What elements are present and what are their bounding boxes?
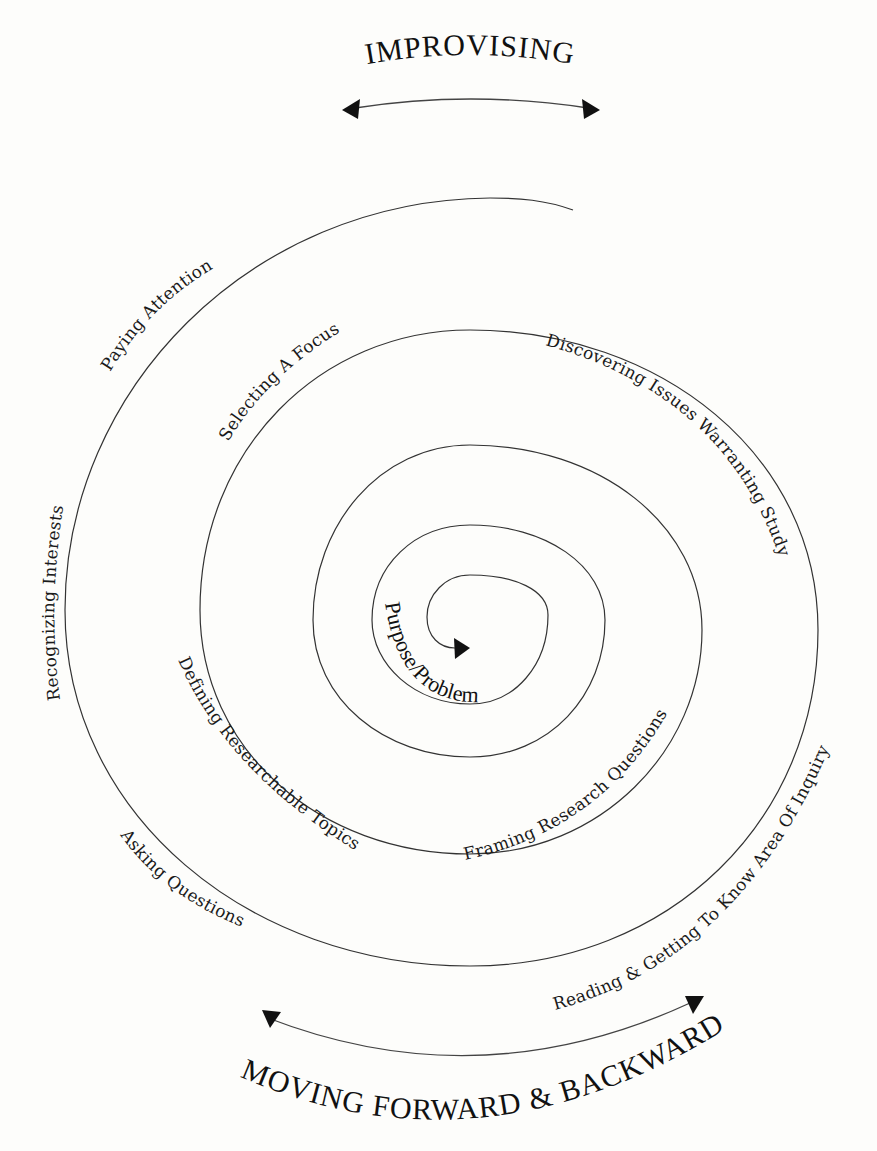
moving-forward-backward-title: MOVING FORWARD & BACKWARD — [237, 1006, 729, 1126]
label-defining-topics: Defining Researchable Topics — [174, 653, 364, 854]
label-recognizing-interests: Recognizing Interests — [38, 503, 67, 702]
spiral-line — [65, 198, 818, 966]
improvising-title: IMPROVISING — [362, 28, 577, 70]
research-spiral-diagram: IMPROVISING Paying Attention Recognizing… — [0, 0, 877, 1151]
label-purpose-problem: Purpose/Problem — [380, 600, 479, 707]
label-discovering-issues: Discovering Issues Warranting Study — [544, 330, 795, 559]
spiral-end-arrow-icon — [454, 638, 470, 659]
label-selecting-focus: Selecting A Focus — [214, 318, 342, 444]
top-double-arrow-icon — [342, 99, 600, 119]
label-asking-questions: Asking Questions — [116, 825, 248, 931]
label-framing-questions: Framing Research Questions — [461, 705, 671, 864]
